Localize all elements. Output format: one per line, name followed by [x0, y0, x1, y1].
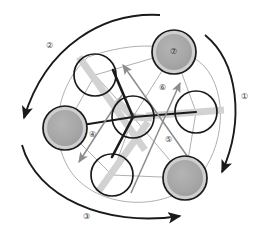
- label-3: ③: [83, 213, 90, 221]
- arc-2: [24, 15, 160, 118]
- label-5: ⑤: [165, 136, 172, 144]
- node-label-8: ⑧: [129, 113, 136, 121]
- node-label-7: ⑦: [170, 48, 177, 56]
- arc-3: [22, 145, 180, 219]
- diagram-canvas: ① ② ③ ④ ⑤ ⑥ ⑦ ⑧: [0, 0, 261, 236]
- node-bottom-right[interactable]: [167, 160, 203, 196]
- node-left[interactable]: [47, 110, 83, 146]
- label-6: ⑥: [159, 84, 166, 92]
- label-1: ①: [241, 93, 248, 101]
- label-4: ④: [89, 131, 96, 139]
- label-2: ②: [46, 42, 53, 50]
- arc-1: [205, 35, 235, 172]
